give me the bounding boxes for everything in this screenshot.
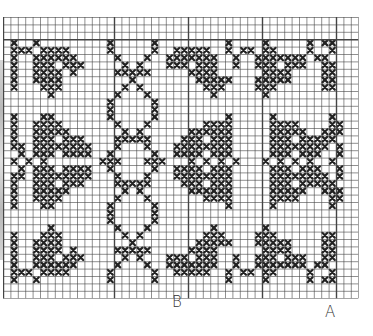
cross-stitch-icon [204,159,209,164]
cross-stitch-icon [278,151,283,156]
cross-stitch-icon [308,151,313,156]
cross-stitch-icon [189,48,194,53]
cross-stitch-icon [19,166,24,171]
cross-stitch-icon [285,240,290,245]
cross-stitch-icon [322,240,327,245]
cross-stitch-icon [12,248,17,253]
cross-stitch-icon [189,181,194,186]
cross-stitch-icon [189,174,194,179]
cross-stitch-icon [226,122,231,127]
cross-stitch-icon [41,137,46,142]
cross-stitch-icon [56,55,61,60]
cross-stitch-icon [49,174,54,179]
cross-stitch-icon [26,270,31,275]
cross-stitch-icon [167,63,172,68]
cross-stitch-icon [204,248,209,253]
cross-stitch-icon [219,196,224,201]
cross-stitch-icon [337,151,342,156]
cross-stitch-icon [71,137,76,142]
cross-stitch-icon [12,129,17,134]
cross-stitch-icon [293,188,298,193]
cross-stitch-icon [71,262,76,267]
cross-stitch-icon [263,92,268,97]
cross-stitch-icon [63,181,68,186]
cross-stitch-icon [108,40,113,45]
cross-stitch-icon [263,270,268,275]
cross-stitch-icon [189,262,194,267]
cross-stitch-icon [108,211,113,216]
cross-stitch-icon [241,48,246,53]
cross-stitch-icon [315,174,320,179]
cross-stitch-icon [211,92,216,97]
cross-stitch-icon [219,188,224,193]
cross-stitch-icon [308,159,313,164]
cross-stitch-icon [19,48,24,53]
cross-stitch-icon [130,248,135,253]
cross-stitch-icon [174,262,179,267]
cross-stitch-icon [12,255,17,260]
cross-stitch-icon [308,40,313,45]
cross-stitch-icon [271,203,276,208]
cross-stitch-icon [263,70,268,75]
cross-stitch-icon [34,55,39,60]
cross-stitch-icon [285,137,290,142]
cross-stitch-icon [322,248,327,253]
cross-stitch-icon [315,144,320,149]
cross-stitch-icon [182,255,187,260]
cross-stitch-icon [211,240,216,245]
cross-stitch-icon [12,262,17,267]
cross-stitch-icon [211,151,216,156]
cross-stitch-icon [152,48,157,53]
cross-stitch-icon [219,181,224,186]
cross-stitch-icon [63,144,68,149]
cross-stitch-icon [182,270,187,275]
cross-stitch-icon [330,85,335,90]
cross-stitch-icon [293,255,298,260]
cross-stitch-icon [226,270,231,275]
cross-stitch-icon [308,137,313,142]
cross-stitch-icon [56,70,61,75]
cross-stitch-icon [145,122,150,127]
cross-stitch-icon [115,262,120,267]
cross-stitch-icon [197,137,202,142]
cross-stitch-icon [49,196,54,201]
cross-stitch-icon [204,63,209,68]
cross-stitch-icon [108,100,113,105]
cross-stitch-icon [12,233,17,238]
cross-stitch-icon [211,70,216,75]
cross-stitch-icon [204,262,209,267]
cross-stitch-icon [189,270,194,275]
cross-stitch-icon [330,233,335,238]
cross-stitch-icon [12,114,17,119]
cross-stitch-icon [234,63,239,68]
cross-stitch-icon [152,107,157,112]
cross-stitch-icon [49,203,54,208]
cross-stitch-icon [130,181,135,186]
cross-stitch-icon [322,40,327,45]
cross-stitch-icon [189,70,194,75]
cross-stitch-icon [63,188,68,193]
cross-stitch-icon [204,55,209,60]
cross-stitch-icon [182,55,187,60]
cross-stitch-icon [219,77,224,82]
cross-stitch-icon [41,55,46,60]
cross-stitch-icon [271,181,276,186]
cross-stitch-icon [115,92,120,97]
cross-stitch-icon [49,70,54,75]
cross-stitch-icon [49,92,54,97]
cross-stitch-icon [189,188,194,193]
cross-stitch-icon [204,48,209,53]
cross-stitch-icon [322,262,327,267]
cross-stitch-icon [285,255,290,260]
cross-stitch-icon [248,270,253,275]
cross-stitch-icon [293,122,298,127]
cross-stitch-icon [115,55,120,60]
cross-stitch-icon [315,262,320,267]
cross-stitch-icon [285,144,290,149]
cross-stitch-icon [115,70,120,75]
cross-stitch-icon [204,233,209,238]
cross-stitch-icon [56,248,61,253]
cross-stitch-icon [34,122,39,127]
cross-stitch-icon [285,181,290,186]
cross-stitch-icon [315,151,320,156]
